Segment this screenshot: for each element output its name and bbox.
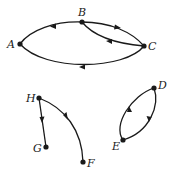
label-e: E [111,140,120,153]
label-h: H [25,92,36,105]
label-g: G [33,142,42,155]
label-b: B [77,6,86,19]
label-d: D [157,79,167,92]
node-f [80,159,85,164]
edge-h-g [39,98,46,147]
node-g [43,144,48,149]
edge-h-f [39,98,83,162]
node-b [79,19,84,24]
node-h [36,95,41,100]
label-f: F [86,157,95,170]
node-a [17,41,22,46]
graph-diagram: A B C D E F G H [0,0,174,174]
label-a: A [6,38,15,51]
edge-b-a [20,22,82,44]
edge-b-c [82,22,144,46]
edge-c-a [20,44,144,65]
label-c: C [148,40,157,53]
arrow-icon-d-e [147,116,152,122]
edge-c-b [82,22,144,46]
edge-e-d [120,88,154,140]
arrow-icon-c-a [79,65,85,70]
node-c [141,43,146,48]
arrow-icon-h-g [40,117,45,124]
node-d [151,85,156,90]
node-e [120,137,125,142]
